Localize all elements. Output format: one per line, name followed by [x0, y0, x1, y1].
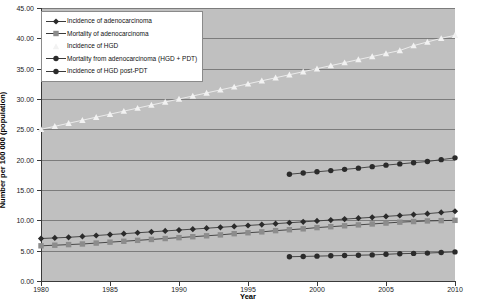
- data-point-marker: [163, 236, 168, 241]
- data-point-marker: [135, 238, 140, 243]
- legend-label: Incidence of HGD post-PDT: [67, 68, 148, 75]
- y-axis-tick-label: 45.00: [0, 5, 34, 12]
- data-point-marker: [80, 241, 85, 246]
- data-point-marker: [259, 221, 265, 227]
- data-point-marker: [438, 209, 444, 215]
- series-2: [38, 218, 457, 249]
- data-point-marker: [93, 232, 99, 238]
- legend-label: Mortality of adenocarcinoma: [67, 31, 149, 38]
- data-point-marker: [314, 225, 319, 230]
- data-point-marker: [397, 251, 402, 256]
- legend-label: Incidence of adenocarcinoma: [67, 18, 152, 25]
- data-point-marker: [107, 231, 113, 237]
- data-point-marker: [452, 249, 457, 254]
- data-point-marker: [439, 250, 444, 255]
- legend-item-3[interactable]: Incidence of HGD: [45, 40, 197, 53]
- data-point-marker: [425, 250, 430, 255]
- data-point-marker: [66, 242, 71, 247]
- data-point-marker: [314, 253, 319, 258]
- y-axis-tick-label: 35.00: [0, 65, 34, 72]
- data-point-marker: [411, 160, 416, 165]
- data-point-marker: [356, 222, 361, 227]
- data-point-marker: [328, 168, 333, 173]
- legend-item-4[interactable]: Mortality from adenocarcinoma (HGD + PDT…: [45, 53, 197, 66]
- data-point-marker: [328, 253, 333, 258]
- data-point-marker: [342, 216, 348, 222]
- data-point-marker: [300, 219, 306, 225]
- legend-item-5[interactable]: Incidence of HGD post-PDT: [45, 65, 197, 78]
- data-point-marker: [218, 232, 223, 237]
- data-point-marker: [383, 252, 388, 257]
- data-point-marker: [245, 230, 250, 235]
- data-point-marker: [148, 229, 154, 235]
- data-point-marker: [121, 239, 126, 244]
- data-point-marker: [301, 254, 306, 259]
- legend-item-2[interactable]: Mortality of adenocarcinoma: [45, 28, 197, 41]
- y-axis-tick-label: 10.00: [0, 217, 34, 224]
- data-point-marker: [231, 223, 237, 229]
- data-point-marker: [287, 172, 292, 177]
- data-point-marker: [286, 220, 292, 226]
- data-point-marker: [52, 235, 58, 241]
- data-point-marker: [411, 251, 416, 256]
- x-axis-title: Year: [240, 292, 256, 301]
- legend-marker-icon: [45, 66, 67, 77]
- data-point-marker: [411, 211, 417, 217]
- data-point-marker: [452, 218, 457, 223]
- data-point-marker: [383, 213, 389, 219]
- y-axis-title: Number per 100 000 (population): [0, 92, 7, 209]
- legend-label: Mortality from adenocarcinoma (HGD + PDT…: [67, 56, 197, 63]
- data-point-marker: [176, 235, 181, 240]
- data-point-marker: [38, 243, 43, 248]
- data-point-marker: [273, 228, 278, 233]
- data-point-marker: [452, 208, 458, 214]
- data-point-marker: [342, 167, 347, 172]
- data-point-marker: [287, 254, 292, 259]
- data-point-marker: [135, 230, 141, 236]
- x-axis-tick-label: 2000: [309, 286, 325, 293]
- y-axis-tick-label: 0.00: [0, 278, 34, 285]
- data-point-marker: [383, 220, 388, 225]
- legend-marker-icon: [45, 28, 67, 39]
- x-axis-tick-label: 2005: [378, 286, 394, 293]
- data-point-marker: [397, 219, 402, 224]
- data-point-marker: [439, 218, 444, 223]
- data-point-marker: [411, 219, 416, 224]
- data-point-marker: [79, 233, 85, 239]
- data-point-marker: [383, 162, 388, 167]
- data-point-marker: [314, 169, 319, 174]
- data-point-marker: [328, 217, 334, 223]
- data-point-marker: [424, 211, 430, 217]
- data-point-marker: [204, 225, 210, 231]
- legend-marker-icon: [45, 41, 67, 52]
- legend-marker-icon: [45, 16, 67, 27]
- x-axis-tick-label: 1990: [171, 286, 187, 293]
- data-point-marker: [342, 223, 347, 228]
- series-4: [287, 155, 458, 177]
- data-point-marker: [356, 165, 361, 170]
- data-point-marker: [204, 233, 209, 238]
- data-point-marker: [369, 214, 375, 220]
- data-point-marker: [94, 240, 99, 245]
- y-axis-tick-label: 40.00: [0, 35, 34, 42]
- data-point-marker: [425, 218, 430, 223]
- y-axis-tick-label: 5.00: [0, 247, 34, 254]
- data-point-marker: [425, 159, 430, 164]
- data-point-marker: [176, 227, 182, 233]
- data-point-marker: [287, 227, 292, 232]
- data-point-marker: [314, 218, 320, 224]
- data-point-marker: [439, 157, 444, 162]
- data-point-marker: [397, 212, 403, 218]
- data-point-marker: [245, 222, 251, 228]
- legend-label: Incidence of HGD: [67, 43, 118, 50]
- data-point-marker: [273, 221, 279, 227]
- x-axis-tick-label: 2010: [447, 286, 463, 293]
- legend-item-1[interactable]: Incidence of adenocarcinoma: [45, 15, 197, 28]
- series-1: [38, 208, 458, 242]
- data-point-marker: [301, 170, 306, 175]
- chart-legend: Incidence of adenocarcinomaMortality of …: [41, 11, 203, 82]
- data-point-marker: [356, 253, 361, 258]
- data-point-marker: [38, 235, 44, 241]
- x-axis-tick-label: 1980: [33, 286, 49, 293]
- data-point-marker: [162, 228, 168, 234]
